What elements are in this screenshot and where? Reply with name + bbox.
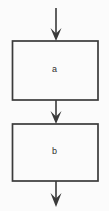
flowchart-canvas: a b: [0, 0, 109, 211]
entry-arrow: [51, 8, 62, 41]
exit-arrow: [51, 181, 62, 207]
node-a-label: a: [0, 65, 109, 74]
flowchart-graphics: [0, 0, 109, 211]
a-to-b-arrow: [51, 100, 62, 124]
node-b-label: b: [0, 147, 109, 156]
